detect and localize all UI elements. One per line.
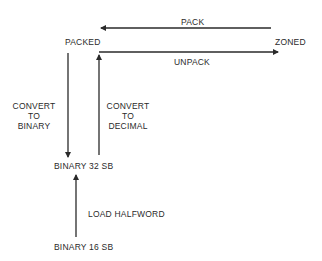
convert-to-binary-line-2: TO bbox=[12, 111, 56, 121]
binary-32-node: BINARY 32 SB bbox=[54, 161, 113, 171]
unpack-label: UNPACK bbox=[174, 57, 210, 67]
load-halfword-label: LOAD HALFWORD bbox=[88, 209, 165, 219]
convert-to-decimal-line-1: CONVERT bbox=[105, 101, 151, 111]
binary-16-node: BINARY 16 SB bbox=[54, 242, 113, 252]
convert-to-binary-line-1: CONVERT bbox=[12, 101, 56, 111]
convert-to-binary-line-3: BINARY bbox=[12, 121, 56, 131]
zoned-node: ZONED bbox=[275, 37, 306, 47]
convert-to-binary-label: CONVERT TO BINARY bbox=[12, 101, 56, 131]
convert-to-decimal-label: CONVERT TO DECIMAL bbox=[105, 101, 151, 131]
convert-to-decimal-line-3: DECIMAL bbox=[105, 121, 151, 131]
data-conversion-diagram: PACK PACKED ZONED UNPACK CONVERT TO BINA… bbox=[0, 0, 322, 261]
convert-to-decimal-line-2: TO bbox=[105, 111, 151, 121]
pack-label: PACK bbox=[181, 17, 204, 27]
packed-node: PACKED bbox=[65, 37, 101, 47]
